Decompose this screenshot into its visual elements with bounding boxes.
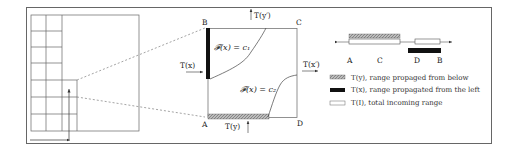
diagram-canvas: B C A D T(x) T(y) T(y′) T(x′) 𝓕(x) = c₁ … xyxy=(0,0,516,154)
curve-label-c1: 𝓕(x) = c₁ xyxy=(214,43,250,52)
corner-label-c: C xyxy=(296,18,302,27)
interval-white-ac xyxy=(349,39,400,44)
flow-label-left-in: T(x) xyxy=(180,61,195,70)
grid-domain xyxy=(31,15,139,131)
legend-swatch-white xyxy=(330,101,345,105)
flow-label-bottom-in: T(y) xyxy=(225,122,240,131)
curve-c2 xyxy=(268,75,297,117)
legend: T(y), range propaged from below T(x), ra… xyxy=(330,74,480,107)
legend-text-hatched: T(y), range propaged from below xyxy=(351,74,469,82)
interval-label-c: C xyxy=(377,56,383,65)
curve-c1 xyxy=(210,28,266,79)
flow-label-top-out: T(y′) xyxy=(254,11,271,20)
zoom-line-bottom xyxy=(77,97,205,117)
flow-label-right-out: T(x′) xyxy=(303,60,320,69)
interval-label-d: D xyxy=(414,56,420,65)
cell-box xyxy=(208,29,297,118)
curve-label-c2: 𝓕(x) = c₂ xyxy=(240,85,276,94)
left-range-bar xyxy=(206,28,210,79)
interval-diagram xyxy=(338,34,452,53)
interval-label-a: A xyxy=(346,56,353,65)
legend-swatch-black xyxy=(330,88,345,92)
interval-label-b: B xyxy=(437,56,443,65)
interval-black xyxy=(408,48,441,53)
interval-white-db xyxy=(415,39,440,44)
legend-text-black: T(x), range propagated from the left xyxy=(351,86,480,94)
legend-swatch-hatched xyxy=(330,75,345,79)
corner-label-a: A xyxy=(201,120,208,129)
corner-label-b: B xyxy=(202,18,208,27)
zoom-line-top xyxy=(77,28,205,80)
corner-label-d: D xyxy=(297,119,303,128)
interval-hatched xyxy=(349,34,400,38)
legend-text-white: T(I), total incoming range xyxy=(351,99,442,107)
bottom-range-bar xyxy=(208,114,269,119)
